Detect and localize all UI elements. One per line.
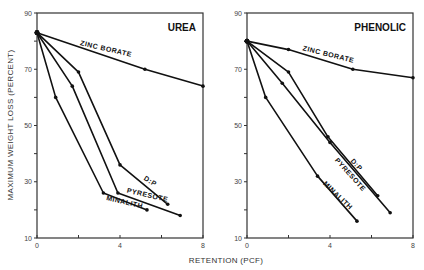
data-point-marker: [35, 30, 40, 35]
x-tick-label: 8: [411, 242, 415, 249]
data-point-marker: [145, 208, 149, 212]
y-tick-label: 50: [24, 122, 32, 129]
series-label: ZINC BORATE: [80, 39, 133, 58]
data-point-marker: [245, 39, 250, 44]
series-label: ZINC BORATE: [302, 44, 355, 64]
y-tick-label: 10: [24, 235, 32, 242]
data-point-marker: [201, 84, 205, 88]
x-tick-label: 8: [201, 242, 205, 249]
y-axis-title: MAXIMUM WEIGHT LOSS (PERCENT): [6, 50, 15, 201]
data-point-marker: [166, 202, 170, 206]
data-point-marker: [287, 48, 291, 52]
x-tick-label: 4: [118, 242, 122, 249]
data-point-marker: [70, 84, 74, 88]
data-point-marker: [178, 214, 182, 218]
data-point-marker: [355, 219, 359, 223]
chart-figure: 1030507090048UREAZINC BORATED:PPYRESOTEM…: [0, 0, 424, 270]
panel-phenolic: 1030507090048PHENOLICZINC BORATED:PPYRES…: [234, 10, 415, 250]
y-tick-label: 50: [234, 122, 242, 129]
data-point-marker: [328, 141, 332, 145]
chart-canvas: 1030507090048UREAZINC BORATED:PPYRESOTEM…: [0, 0, 424, 270]
series-label: MINALITH: [322, 180, 354, 211]
x-tick-label: 0: [245, 242, 249, 249]
data-point-marker: [77, 70, 81, 74]
data-point-marker: [116, 191, 120, 195]
data-point-marker: [280, 82, 284, 86]
y-tick-label: 70: [234, 66, 242, 73]
series-line-zinc-borate: [37, 33, 203, 86]
x-tick-label: 4: [328, 242, 332, 249]
y-tick-label: 70: [24, 66, 32, 73]
series-line-minalith: [37, 33, 147, 210]
panel-title: UREA: [168, 22, 196, 33]
data-point-marker: [118, 163, 122, 167]
x-tick-label: 0: [35, 242, 39, 249]
data-point-marker: [264, 96, 268, 100]
y-tick-label: 30: [24, 178, 32, 185]
y-tick-label: 10: [234, 235, 242, 242]
data-point-marker: [411, 76, 415, 80]
data-point-marker: [351, 67, 355, 71]
data-point-marker: [287, 70, 291, 74]
data-point-marker: [54, 96, 58, 100]
series-line-pyresote: [37, 33, 180, 216]
panel-urea: 1030507090048UREAZINC BORATED:PPYRESOTEM…: [24, 10, 205, 250]
panel-title: PHENOLIC: [354, 22, 406, 33]
y-tick-label: 90: [234, 10, 242, 17]
x-axis-title: RETENTION (PCF): [189, 256, 263, 265]
series-line-pyresote: [247, 41, 390, 213]
data-point-marker: [388, 211, 392, 215]
data-point-marker: [143, 67, 147, 71]
y-tick-label: 90: [24, 10, 32, 17]
data-point-marker: [316, 174, 320, 178]
series-label: MINALITH: [106, 194, 144, 209]
y-tick-label: 30: [234, 178, 242, 185]
data-point-marker: [102, 191, 106, 195]
